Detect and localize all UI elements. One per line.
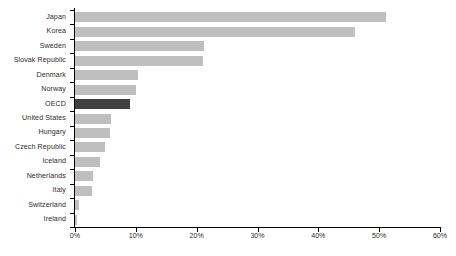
category-label: Netherlands: [0, 169, 70, 183]
bar[interactable]: [75, 200, 79, 210]
bar[interactable]: [75, 186, 92, 196]
category-label: Sweden: [0, 39, 70, 53]
x-axis-tick: [75, 228, 76, 232]
bar-row: [75, 97, 440, 111]
bar-row: [75, 24, 440, 38]
bar[interactable]: [75, 215, 77, 225]
x-axis-tick-label: 50%: [372, 233, 386, 240]
bar-row: [75, 169, 440, 183]
bar-chart: Japan Korea Sweden Slovak Republic Denma…: [0, 0, 456, 256]
bar-row: [75, 111, 440, 125]
bar-row: [75, 184, 440, 198]
bar-row: [75, 53, 440, 67]
bar[interactable]: [75, 70, 138, 80]
bar-row: [75, 140, 440, 154]
bar-row: [75, 126, 440, 140]
x-axis-tick-labels: 0%10%20%30%40%50%60%: [0, 233, 456, 245]
category-label: Slovak Republic: [0, 53, 70, 67]
x-axis-tick-label: 60%: [433, 233, 447, 240]
bar[interactable]: [75, 27, 355, 37]
bar-row: [75, 155, 440, 169]
x-axis-tick-label: 10%: [129, 233, 143, 240]
category-axis: Japan Korea Sweden Slovak Republic Denma…: [0, 10, 70, 227]
bar[interactable]: [75, 157, 100, 167]
x-axis-tick: [318, 228, 319, 232]
category-label: Czech Republic: [0, 140, 70, 154]
x-axis-tick-label: 30%: [250, 233, 264, 240]
category-label: Ireland: [0, 213, 70, 227]
bar[interactable]: [75, 85, 136, 95]
bar[interactable]: [75, 128, 110, 138]
plot-area: [75, 10, 440, 227]
bar[interactable]: [75, 99, 130, 109]
bar-row: [75, 39, 440, 53]
bar-row: [75, 198, 440, 212]
bar-row: [75, 10, 440, 24]
bar-series: [75, 10, 440, 227]
bar[interactable]: [75, 12, 386, 22]
x-axis-tick: [379, 228, 380, 232]
x-axis-tick-label: 0%: [70, 233, 80, 240]
x-axis-tick: [197, 228, 198, 232]
x-axis-ticks: [0, 228, 456, 232]
value-axis-line: [74, 8, 75, 228]
bar[interactable]: [75, 114, 111, 124]
x-axis-tick: [440, 228, 441, 232]
bar[interactable]: [75, 41, 204, 51]
category-label: Korea: [0, 24, 70, 38]
category-label: Switzerland: [0, 198, 70, 212]
x-axis-tick: [258, 228, 259, 232]
category-label: Iceland: [0, 155, 70, 169]
bar-row: [75, 82, 440, 96]
bar[interactable]: [75, 142, 105, 152]
bar-row: [75, 213, 440, 227]
category-label: United States: [0, 111, 70, 125]
bar-row: [75, 68, 440, 82]
bar[interactable]: [75, 171, 93, 181]
x-axis-tick: [136, 228, 137, 232]
category-label: Japan: [0, 10, 70, 24]
category-label: Denmark: [0, 68, 70, 82]
category-label: OECD: [0, 97, 70, 111]
x-axis-tick-label: 20%: [190, 233, 204, 240]
category-label: Italy: [0, 184, 70, 198]
category-label: Norway: [0, 82, 70, 96]
bar[interactable]: [75, 56, 203, 66]
category-label: Hungary: [0, 126, 70, 140]
x-axis-tick-label: 40%: [311, 233, 325, 240]
